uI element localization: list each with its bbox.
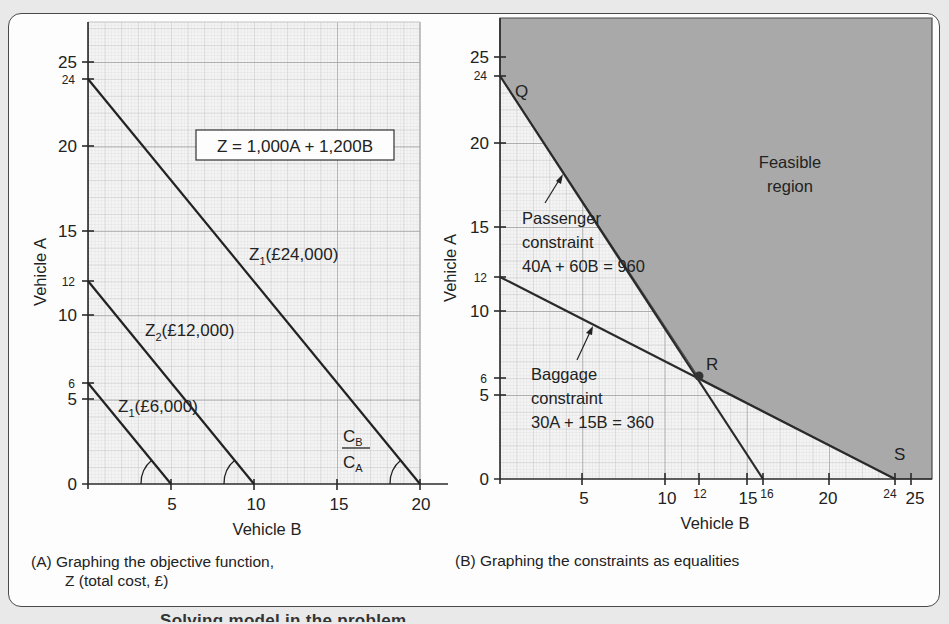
svg-text:24: 24 — [883, 487, 897, 501]
point-r-label: R — [706, 355, 718, 374]
svg-text:5: 5 — [480, 386, 489, 405]
caption-a-line-2: Z (total cost, £) — [31, 571, 274, 590]
svg-text:12: 12 — [474, 271, 488, 285]
point-q-label: Q — [515, 82, 528, 101]
baggage-label-3: 30A + 15B = 360 — [531, 413, 654, 431]
svg-text:6: 6 — [480, 372, 487, 386]
caption-b-line-1: (B) Graphing the constraints as equaliti… — [455, 551, 739, 570]
chart-b-y-tick-labels: 25 24 20 15 12 10 6 5 0 — [470, 48, 489, 489]
svg-text:10: 10 — [470, 302, 489, 321]
passenger-label-3: 40A + 60B = 960 — [522, 257, 645, 275]
svg-text:24: 24 — [474, 69, 488, 83]
svg-text:5: 5 — [579, 489, 588, 508]
passenger-label-2: constraint — [522, 233, 594, 251]
chart-b-ylabel: Vehicle A — [441, 234, 459, 302]
svg-text:16: 16 — [760, 487, 774, 501]
svg-text:15: 15 — [739, 489, 758, 508]
passenger-label-1: Passenger — [522, 209, 601, 227]
point-r-marker — [695, 372, 704, 381]
feasible-region-label: Feasible — [759, 153, 821, 171]
feasible-region-label-2: region — [767, 177, 813, 195]
chart-b-xlabel: Vehicle B — [681, 514, 750, 532]
chart-b: 25 24 20 15 12 10 6 5 0 5 10 12 15 16 20… — [0, 0, 949, 624]
svg-text:12: 12 — [693, 487, 707, 501]
caption-a: (A) Graphing the objective function, Z (… — [31, 552, 274, 590]
baggage-label-2: constraint — [531, 389, 603, 407]
chart-b-x-tick-labels: 5 10 12 15 16 20 24 25 — [579, 487, 924, 508]
baggage-label-1: Baggage — [531, 365, 597, 383]
caption-b: (B) Graphing the constraints as equaliti… — [455, 551, 739, 570]
svg-text:20: 20 — [470, 134, 489, 153]
svg-text:20: 20 — [819, 489, 838, 508]
svg-text:15: 15 — [470, 218, 489, 237]
svg-text:10: 10 — [658, 489, 677, 508]
point-s-label: S — [894, 445, 905, 464]
svg-text:25: 25 — [470, 48, 489, 67]
svg-text:25: 25 — [906, 489, 925, 508]
caption-a-line-1: (A) Graphing the objective function, — [31, 552, 274, 571]
svg-text:0: 0 — [480, 470, 489, 489]
